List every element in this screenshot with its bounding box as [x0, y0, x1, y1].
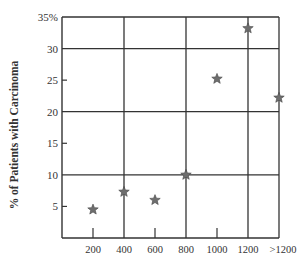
axes	[62, 17, 279, 238]
y-tick-label: 35%	[38, 11, 58, 23]
star-marker-icon	[150, 195, 160, 205]
star-marker-icon	[88, 204, 98, 214]
y-tick-label: 20	[47, 106, 59, 118]
y-tick-label: 15	[47, 137, 59, 149]
y-tick-label: 25	[47, 74, 59, 86]
x-tick-label: 200	[85, 244, 101, 255]
y-tick-label: 10	[47, 169, 59, 181]
x-tick-label: 600	[147, 244, 163, 255]
x-tick-label: >1200	[270, 244, 297, 255]
x-tick-label: 1000	[207, 244, 228, 255]
y-tick-label: 5	[53, 200, 59, 212]
star-marker-icon	[212, 73, 222, 83]
x-tick-label: 800	[178, 244, 194, 255]
y-tick-label: 30	[47, 43, 59, 55]
gridlines	[62, 17, 279, 238]
x-tick-label: 1200	[238, 244, 259, 255]
scatter-chart: 5101520253035% 20040060080010001200>1200	[0, 0, 305, 266]
x-axis-ticks: 20040060080010001200>1200	[85, 228, 296, 255]
x-tick-label: 400	[116, 244, 132, 255]
